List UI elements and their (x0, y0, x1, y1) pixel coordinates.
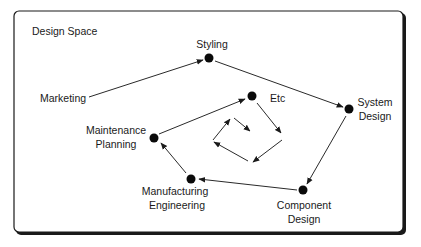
etc-dot (248, 92, 257, 101)
system-design-label-line2: Design (359, 110, 392, 122)
component-design-label-line1: Component (277, 199, 331, 211)
marketing-label: Marketing (40, 92, 86, 104)
etc-label: Etc (270, 92, 285, 104)
maintenance-label-line1: Maintenance (86, 124, 146, 136)
manufacturing-label-line2: Engineering (149, 199, 205, 211)
manufacturing-label-line1: Manufacturing (142, 185, 209, 197)
maintenance-planning-dot (150, 134, 159, 143)
system-design-label-line1: System (357, 96, 392, 108)
maintenance-label-line2: Planning (96, 138, 137, 150)
system-design-dot (345, 105, 354, 114)
styling-dot (205, 54, 214, 63)
styling-label: Styling (196, 38, 228, 50)
component-design-label-line2: Design (288, 213, 321, 225)
manufacturing-engineering-dot (187, 175, 196, 184)
node-marketing: Marketing (40, 92, 86, 104)
design-space-diagram: Design Space Styling System Design Compo… (0, 0, 421, 247)
diagram-title: Design Space (32, 25, 98, 37)
component-design-dot (299, 186, 308, 195)
